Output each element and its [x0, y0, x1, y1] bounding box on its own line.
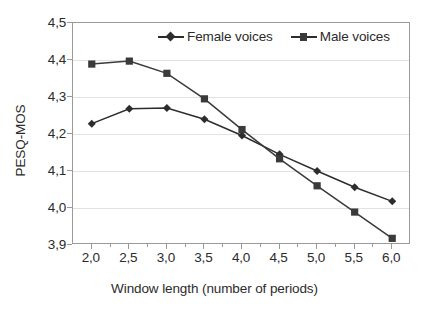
x-tick-mark [316, 244, 317, 249]
x-tick-mark [354, 244, 355, 249]
data-point-square[interactable] [163, 70, 170, 77]
legend-item-female[interactable]: Female voices [158, 29, 273, 44]
x-minor-tick-mark [110, 244, 111, 247]
y-tick-label: 4,0 [28, 200, 66, 215]
square-marker-icon [291, 31, 317, 43]
y-tick-label: 4,3 [28, 89, 66, 104]
x-tick-label: 3,5 [194, 250, 212, 265]
y-tick-mark [67, 244, 72, 245]
x-tick-mark [128, 244, 129, 249]
x-tick-label: 3,0 [157, 250, 175, 265]
legend-item-male[interactable]: Male voices [291, 29, 390, 44]
x-minor-tick-mark [185, 244, 186, 247]
x-tick-label: 4,5 [270, 250, 288, 265]
x-tick-mark [279, 244, 280, 249]
x-minor-tick-mark [147, 244, 148, 247]
data-point-square[interactable] [201, 95, 208, 102]
data-point-diamond[interactable] [88, 120, 96, 128]
data-point-square[interactable] [126, 58, 133, 65]
data-point-square[interactable] [276, 155, 283, 162]
y-tick-label: 4,2 [28, 126, 66, 141]
data-point-diamond[interactable] [125, 105, 133, 113]
data-point-diamond[interactable] [313, 167, 321, 175]
x-minor-tick-mark [335, 244, 336, 247]
x-minor-tick-mark [260, 244, 261, 247]
plot-area [72, 22, 410, 244]
series-line-square [92, 61, 392, 238]
diamond-marker-icon [158, 31, 184, 43]
y-tick-label: 4,5 [28, 15, 66, 30]
x-minor-tick-mark [372, 244, 373, 247]
x-tick-label: 2,0 [82, 250, 100, 265]
data-point-square[interactable] [88, 60, 95, 67]
data-point-diamond[interactable] [388, 197, 396, 205]
x-tick-label: 5,5 [345, 250, 363, 265]
data-point-diamond[interactable] [200, 115, 208, 123]
legend-label-male: Male voices [320, 29, 390, 44]
x-tick-label: 4,0 [232, 250, 250, 265]
x-tick-label: 2,5 [119, 250, 137, 265]
data-point-diamond[interactable] [351, 183, 359, 191]
chart-legend: Female voices Male voices [158, 29, 390, 44]
x-axis-title: Window length (number of periods) [0, 281, 429, 296]
y-tick-label: 4,4 [28, 52, 66, 67]
data-point-square[interactable] [389, 235, 396, 242]
x-tick-mark [166, 244, 167, 249]
chart-figure: PESQ-MOS 4,54,44,34,24,14,03,9 2,02,53,0… [0, 0, 429, 314]
series-layer [73, 23, 411, 245]
x-minor-tick-mark [222, 244, 223, 247]
x-tick-mark [391, 244, 392, 249]
data-point-square[interactable] [238, 126, 245, 133]
series-line-diamond [92, 108, 392, 201]
data-point-square[interactable] [351, 208, 358, 215]
y-tick-label: 4,1 [28, 163, 66, 178]
x-tick-mark [203, 244, 204, 249]
x-minor-tick-mark [297, 244, 298, 247]
x-tick-mark [91, 244, 92, 249]
x-tick-label: 5,0 [307, 250, 325, 265]
data-point-diamond[interactable] [163, 104, 171, 112]
legend-label-female: Female voices [187, 29, 273, 44]
x-tick-label: 6,0 [382, 250, 400, 265]
y-tick-label: 3,9 [28, 237, 66, 252]
x-tick-mark [241, 244, 242, 249]
data-point-square[interactable] [314, 182, 321, 189]
